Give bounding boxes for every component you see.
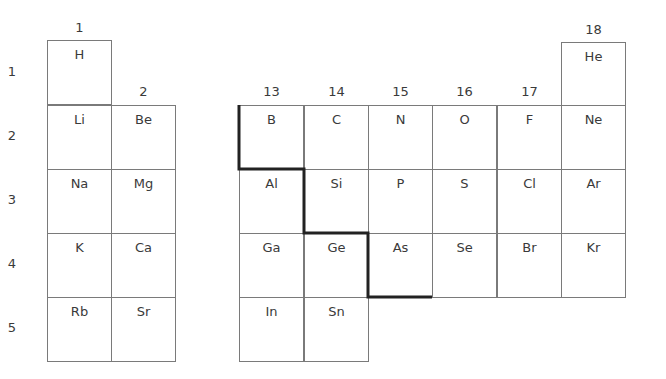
metal-nonmetal-staircase-line — [0, 0, 666, 379]
